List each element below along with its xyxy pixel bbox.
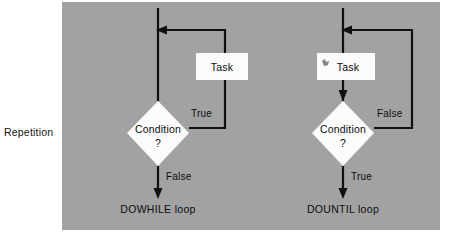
dountil-false-label: False [377, 108, 403, 119]
dountil-task-to-condition-arrowhead [339, 90, 348, 101]
dowhile-false-arrowhead [154, 188, 163, 199]
figure-canvas: Repetition Task Condition ? True False [0, 0, 455, 250]
dountil-flow: Task Condition ? False True DOUNTIL loop [307, 8, 413, 215]
dountil-condition-mark: ? [340, 137, 346, 149]
dountil-true-label: True [351, 171, 372, 182]
dountil-true-arrowhead [339, 188, 348, 199]
flowchart-svg: Task Condition ? True False DOWHILE loop [0, 0, 455, 250]
dowhile-condition-mark: ? [155, 137, 161, 149]
dowhile-task-label: Task [211, 61, 234, 73]
dowhile-flow: Task Condition ? True False DOWHILE loop [120, 8, 248, 215]
dountil-condition-label: Condition [320, 123, 366, 135]
dowhile-condition-label: Condition [135, 123, 181, 135]
dowhile-false-label: False [166, 171, 192, 182]
dowhile-true-label: True [191, 108, 212, 119]
dountil-task-label: Task [337, 61, 360, 73]
dowhile-caption: DOWHILE loop [120, 203, 195, 215]
dountil-caption: DOUNTIL loop [307, 203, 379, 215]
